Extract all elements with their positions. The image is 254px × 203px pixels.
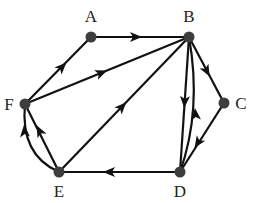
edge-f-to-a [25, 37, 91, 104]
node-label-d: D [174, 182, 186, 201]
arrowhead-f-to-b-icon [94, 66, 109, 80]
node-f [20, 99, 31, 110]
edges-layer [19, 32, 224, 177]
node-label-e: E [54, 182, 64, 201]
directed-graph-diagram: A B C D E F [0, 0, 254, 203]
node-c [219, 98, 230, 109]
node-a [86, 32, 97, 43]
node-b [184, 32, 195, 43]
arrowhead-b-to-c-icon [200, 64, 214, 79]
node-label-c: C [235, 94, 246, 113]
edge-c-to-d [180, 103, 224, 172]
node-label-b: B [183, 7, 194, 26]
node-d [175, 167, 186, 178]
node-label-f: F [4, 95, 13, 114]
node-e [54, 167, 65, 178]
node-label-a: A [85, 7, 98, 26]
arrowhead-e-to-f-straight-icon [32, 123, 46, 138]
arrowhead-e-to-f-curved-icon [19, 125, 30, 138]
